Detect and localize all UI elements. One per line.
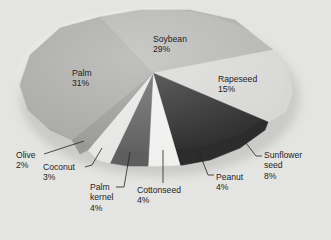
label-palm-kernel: Palm kernel 4% (90, 182, 113, 213)
label-palm: Palm 31% (72, 68, 92, 89)
label-coconut: Coconut 3% (43, 162, 75, 183)
label-rapeseed: Rapeseed 15% (218, 74, 257, 95)
label-cottonseed: Cottonseed 4% (137, 185, 181, 206)
label-soybean: Soybean 29% (153, 34, 187, 55)
label-sunflower-seed: Sunflower seed 8% (264, 150, 302, 181)
label-peanut: Peanut 4% (216, 172, 243, 193)
label-olive: Olive 2% (16, 150, 36, 171)
